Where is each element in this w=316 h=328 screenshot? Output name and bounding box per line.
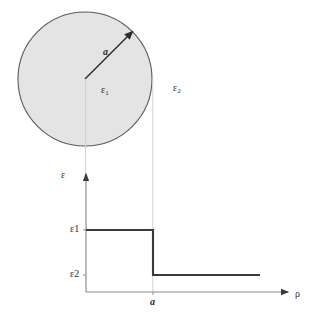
permittivity-step-curve xyxy=(86,230,260,275)
inside-permittivity-label: ε1 xyxy=(101,85,109,97)
physics-figure-permittivity-step: Λ ηυτσηου ετουλ/ΑΝΑΣ ετουμ a xyxy=(0,0,316,328)
y-tick-label-eps2: ε2 xyxy=(70,269,79,279)
radius-label: a xyxy=(103,47,108,57)
x-axis-label: ρ xyxy=(295,289,300,299)
x-tick-label-a: a xyxy=(150,297,155,307)
outside-permittivity-subscript: 2 xyxy=(177,87,181,95)
inside-permittivity-subscript: 1 xyxy=(105,89,109,97)
y-tick-eps2-symbol: ε2 xyxy=(70,268,79,279)
y-tick-eps1-symbol: ε1 xyxy=(70,223,79,234)
figure-canvas xyxy=(0,0,316,328)
y-tick-label-eps1: ε1 xyxy=(70,224,79,234)
y-axis-label: ε xyxy=(61,170,65,180)
outside-permittivity-label: ε2 xyxy=(173,83,181,95)
